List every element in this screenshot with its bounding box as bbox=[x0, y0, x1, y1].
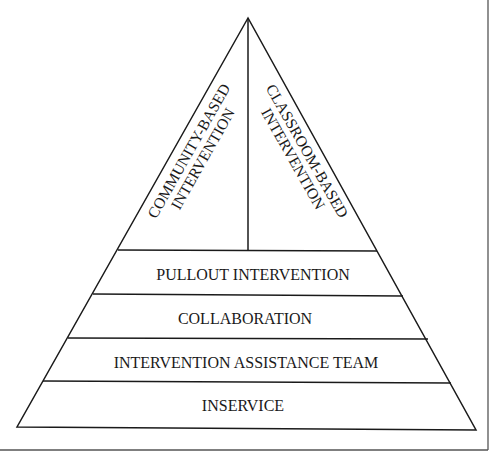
tier-line-4 bbox=[43, 381, 451, 383]
apex-right-section: CLASSROOM-BASED INTERVENTION bbox=[249, 81, 352, 228]
tier-label-intervention-assistance-team: INTERVENTION ASSISTANCE TEAM bbox=[114, 354, 379, 371]
tier-label-pullout: PULLOUT INTERVENTION bbox=[156, 266, 350, 283]
tier-label-inservice: INSERVICE bbox=[202, 397, 284, 414]
tier-line-2 bbox=[93, 294, 403, 296]
apex-left-section: COMMUNITY-BASED INTERVENTION bbox=[144, 81, 247, 229]
tier-line-1 bbox=[118, 250, 377, 251]
tier-line-3 bbox=[68, 338, 428, 339]
tier-label-collaboration: COLLABORATION bbox=[178, 310, 313, 327]
pyramid-diagram: COMMUNITY-BASED INTERVENTION CLASSROOM-B… bbox=[0, 0, 494, 457]
